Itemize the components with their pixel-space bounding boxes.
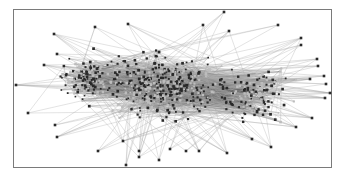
network-graph-canvas xyxy=(0,0,348,179)
graph-node xyxy=(54,124,57,127)
graph-node xyxy=(56,136,59,139)
graph-node xyxy=(324,97,327,100)
graph-node xyxy=(317,65,320,68)
graph-node xyxy=(228,30,231,33)
graph-node xyxy=(15,84,18,87)
graph-node xyxy=(226,152,229,155)
graph-node xyxy=(295,126,298,129)
graph-node xyxy=(56,53,59,56)
graph-node xyxy=(158,159,161,162)
graph-node xyxy=(270,146,273,149)
graph-node xyxy=(202,24,205,27)
graph-node xyxy=(185,150,188,153)
graph-node xyxy=(309,78,312,81)
graph-node xyxy=(169,148,172,151)
graph-node xyxy=(125,164,128,167)
graph-node xyxy=(122,140,125,143)
graph-node xyxy=(97,150,100,153)
graph-node xyxy=(251,138,254,141)
graph-node xyxy=(300,44,303,47)
graph-node xyxy=(27,112,30,115)
graph-node xyxy=(138,156,141,159)
graph-node xyxy=(300,37,303,40)
graph-node xyxy=(277,24,280,27)
graph-node xyxy=(311,117,314,120)
graph-node xyxy=(94,26,97,29)
graph-node xyxy=(198,150,201,153)
graph-node xyxy=(127,23,130,26)
graph-node xyxy=(53,33,56,36)
graph-node xyxy=(223,11,226,14)
graph-node xyxy=(43,64,46,67)
graph-node xyxy=(323,75,326,78)
graph-node xyxy=(316,58,319,61)
graph-node xyxy=(329,92,332,95)
graph-node xyxy=(325,83,328,86)
network-graph-figure xyxy=(0,0,348,179)
graph-node xyxy=(138,150,141,153)
